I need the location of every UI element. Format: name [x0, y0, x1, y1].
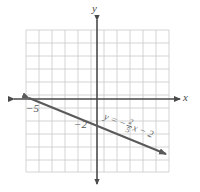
x-intercept-label: −5	[26, 103, 39, 114]
x-axis-label: x	[183, 92, 188, 103]
y-axis-label: y	[92, 3, 97, 14]
graph-figure: x y −5 −2 y = −25x − 2	[0, 0, 200, 192]
y-intercept-label: −2	[74, 119, 87, 130]
coordinate-plane-svg	[0, 0, 200, 192]
